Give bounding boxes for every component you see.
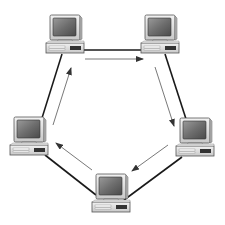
flow-arrow-group: [53, 59, 174, 171]
desktop-computer-icon-right: [176, 118, 214, 156]
flow-arrow-icon: [155, 67, 174, 126]
flow-arrow-icon: [132, 145, 168, 171]
cable-left-to-top-left: [42, 54, 62, 118]
cable-bottom-to-left: [45, 155, 96, 195]
ring-network-diagram: [0, 0, 225, 225]
flow-arrow-icon: [56, 143, 92, 170]
desktop-computer-icon-top-right: [141, 15, 179, 53]
cable-top-right-to-right: [165, 54, 186, 119]
cable-right-to-bottom: [124, 157, 182, 200]
desktop-computer-icon-left: [10, 117, 48, 155]
desktop-computer-icon-bottom: [92, 174, 130, 212]
desktop-computer-icon-top-left: [46, 15, 84, 53]
